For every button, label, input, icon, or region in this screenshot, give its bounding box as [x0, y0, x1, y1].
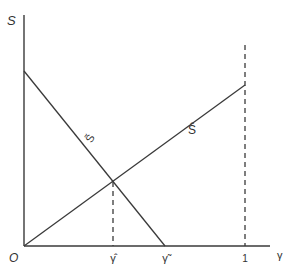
origin-label: O [9, 251, 18, 265]
s-hat-label: Ŝ [188, 122, 196, 137]
s-hat-line [24, 85, 245, 246]
y-axis-label: S [7, 13, 16, 28]
x-axis-label: γ [277, 249, 283, 261]
economics-diagram: S O γ γ̂ γ̃ 1 S̃ Ŝ [0, 0, 295, 274]
tick-gamma-hat-label: γ̂ [110, 252, 118, 264]
s-tilde-label: S̃ [83, 132, 97, 144]
tick-gamma-tilde-label: γ̃ [162, 252, 172, 264]
tick-one-label: 1 [242, 253, 248, 264]
